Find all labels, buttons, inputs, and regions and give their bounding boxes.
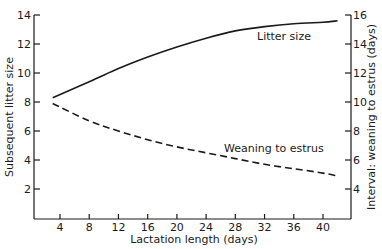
- litter-size-label: Litter size: [257, 30, 311, 43]
- y-tick-label: 4: [24, 154, 31, 167]
- y2-tick-label: 16: [353, 9, 367, 22]
- y2-tick-label: 8: [353, 125, 360, 138]
- x-ticks: 481216202428323640: [57, 214, 331, 234]
- x-tick-label: 4: [57, 221, 64, 234]
- x-tick-label: 36: [287, 221, 301, 234]
- y-tick-label: 8: [24, 96, 31, 109]
- y-axis-title: Subsequent litter size: [3, 57, 16, 177]
- weaning-to-estrus-label: Weaning to estrus: [224, 142, 324, 155]
- x-axis-title: Lactation length (days): [130, 233, 258, 246]
- chart: 481216202428323640 2468101214 4681012141…: [0, 0, 382, 249]
- x-tick-label: 32: [258, 221, 272, 234]
- y-tick-label: 10: [17, 67, 31, 80]
- y2-ticks: 46810121416: [345, 9, 367, 196]
- y2-axis-title: Interval: weaning to estrus (days): [365, 24, 378, 210]
- y-tick-label: 6: [24, 125, 31, 138]
- x-tick-label: 40: [316, 221, 330, 234]
- x-tick-label: 8: [86, 221, 93, 234]
- y-ticks: 2468101214: [17, 9, 40, 196]
- y-tick-label: 14: [17, 9, 31, 22]
- axes: [34, 15, 351, 219]
- x-tick-label: 12: [111, 221, 125, 234]
- y2-tick-label: 4: [353, 183, 360, 196]
- y-tick-label: 2: [24, 183, 31, 196]
- y2-tick-label: 6: [353, 154, 360, 167]
- weaning-to-estrus-line: [53, 103, 338, 175]
- y-tick-label: 12: [17, 38, 31, 51]
